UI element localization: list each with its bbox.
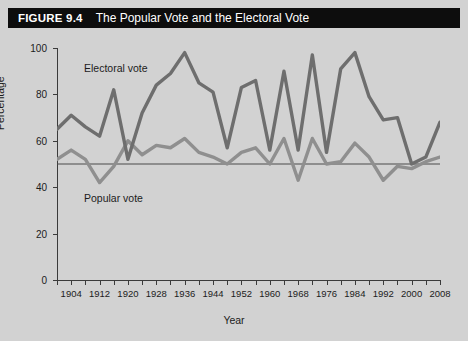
x-tick-mark bbox=[85, 281, 86, 285]
x-tick-mark bbox=[369, 281, 370, 285]
figure-number: FIGURE 9.4 bbox=[18, 12, 83, 24]
x-tick-mark bbox=[383, 281, 384, 285]
figure-title-bar: FIGURE 9.4 The Popular Vote and the Elec… bbox=[8, 8, 460, 28]
x-tick-mark bbox=[227, 281, 228, 285]
x-tick-mark bbox=[114, 281, 115, 285]
x-tick-mark bbox=[185, 281, 186, 285]
y-tick-label: 20 bbox=[17, 228, 47, 239]
x-axis-title: Year bbox=[0, 314, 468, 326]
x-tick-mark bbox=[213, 281, 214, 285]
y-tick-label: 40 bbox=[17, 182, 47, 193]
y-tick-label: 100 bbox=[17, 43, 47, 54]
x-tick-mark bbox=[327, 281, 328, 285]
x-tick-mark bbox=[199, 281, 200, 285]
x-tick-mark bbox=[142, 281, 143, 285]
x-tick-mark bbox=[426, 281, 427, 285]
y-axis-title: Percentage bbox=[0, 76, 6, 130]
x-tick-mark bbox=[256, 281, 257, 285]
x-tick-mark bbox=[397, 281, 398, 285]
x-tick-mark bbox=[412, 281, 413, 285]
plot-area bbox=[57, 48, 440, 280]
figure-container: FIGURE 9.4 The Popular Vote and the Elec… bbox=[0, 0, 468, 341]
x-tick-mark bbox=[156, 281, 157, 285]
x-tick-mark bbox=[440, 281, 441, 285]
x-tick-mark bbox=[341, 281, 342, 285]
x-tick-mark bbox=[312, 281, 313, 285]
x-tick-mark bbox=[298, 281, 299, 285]
x-tick-mark bbox=[270, 281, 271, 285]
popular-vote-line bbox=[57, 138, 440, 182]
y-tick-label: 80 bbox=[17, 89, 47, 100]
electoral-vote-label: Electoral vote bbox=[84, 62, 148, 74]
y-tick-label: 60 bbox=[17, 135, 47, 146]
popular-vote-label: Popular vote bbox=[84, 192, 143, 204]
x-tick-mark bbox=[71, 281, 72, 285]
x-tick-label: 2008 bbox=[420, 288, 460, 299]
x-tick-mark bbox=[355, 281, 356, 285]
x-tick-mark bbox=[170, 281, 171, 285]
x-tick-mark bbox=[100, 281, 101, 285]
chart-lines bbox=[57, 48, 440, 280]
x-tick-mark bbox=[57, 281, 58, 285]
x-tick-mark bbox=[241, 281, 242, 285]
y-tick-label: 0 bbox=[17, 275, 47, 286]
x-tick-mark bbox=[284, 281, 285, 285]
x-tick-mark bbox=[128, 281, 129, 285]
figure-title: The Popular Vote and the Electoral Vote bbox=[96, 11, 309, 25]
